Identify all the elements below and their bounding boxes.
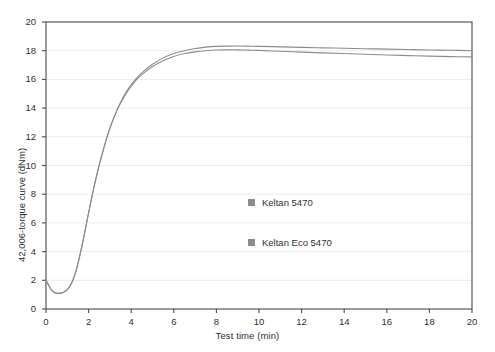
x-axis-tick-label: 20 (462, 316, 482, 327)
x-axis-tick-label: 12 (292, 316, 312, 327)
legend-item-keltan-eco-5470: Keltan Eco 5470 (248, 233, 332, 251)
x-axis-title: Test time (min) (0, 330, 495, 341)
y-axis-tick-label: 14 (14, 102, 36, 113)
y-axis-tick-label: 4 (14, 246, 36, 257)
y-axis-tick-label: 10 (14, 160, 36, 171)
y-axis-tick-label: 20 (14, 16, 36, 27)
x-axis-tick-label: 18 (419, 316, 439, 327)
y-axis-tick-label: 2 (14, 274, 36, 285)
legend-label: Keltan Eco 5470 (262, 237, 332, 248)
y-axis-tick-label: 12 (14, 131, 36, 142)
x-axis-tick-label: 8 (206, 316, 226, 327)
y-axis-tick-label: 6 (14, 217, 36, 228)
x-axis-tick-label: 4 (121, 316, 141, 327)
x-axis-tick-label: 14 (334, 316, 354, 327)
y-axis-tick-label: 18 (14, 45, 36, 56)
legend-item-keltan-5470: Keltan 5470 (248, 193, 332, 211)
chart-legend: Keltan 5470 Keltan Eco 5470 (248, 193, 332, 273)
x-axis-tick-label: 0 (36, 316, 56, 327)
x-axis-tick-label: 10 (249, 316, 269, 327)
plot-area (0, 0, 495, 352)
y-axis-tick-label: 16 (14, 73, 36, 84)
x-axis-tick-label: 2 (79, 316, 99, 327)
legend-label: Keltan 5470 (262, 197, 313, 208)
x-axis-tick-label: 6 (164, 316, 184, 327)
y-axis-tick-label: 0 (14, 303, 36, 314)
legend-swatch-icon (248, 239, 255, 246)
torque-curve-chart: 42,006-torque curve (dNm) Keltan 5470 Ke… (0, 0, 495, 352)
legend-swatch-icon (248, 199, 255, 206)
x-axis-tick-label: 16 (377, 316, 397, 327)
y-axis-tick-label: 8 (14, 188, 36, 199)
